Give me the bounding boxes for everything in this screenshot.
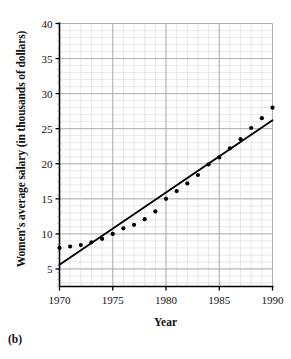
x-axis-ticks: 19701975198019851990	[49, 287, 285, 306]
svg-text:40: 40	[42, 18, 54, 30]
y-axis-ticks: 510152025303540	[42, 18, 60, 287]
figure-panel-b: 510152025303540 19701975198019851990 Wom…	[0, 0, 291, 359]
svg-text:1975: 1975	[102, 294, 125, 306]
svg-text:20: 20	[42, 158, 54, 170]
y-axis-label: Women's average salary (in thousands of …	[15, 24, 27, 274]
svg-text:10: 10	[42, 228, 54, 240]
svg-text:1970: 1970	[49, 294, 72, 306]
svg-text:15: 15	[42, 193, 54, 205]
x-axis-label: Year	[59, 316, 272, 328]
svg-text:1990: 1990	[262, 294, 285, 306]
svg-text:30: 30	[42, 88, 54, 100]
svg-text:1985: 1985	[208, 294, 231, 306]
panel-label: (b)	[8, 333, 22, 345]
svg-text:25: 25	[42, 123, 54, 135]
svg-text:35: 35	[42, 53, 54, 65]
salary-vs-year-scatter-chart: 510152025303540 19701975198019851990	[0, 0, 291, 359]
svg-text:1980: 1980	[155, 294, 178, 306]
svg-text:5: 5	[47, 263, 53, 275]
